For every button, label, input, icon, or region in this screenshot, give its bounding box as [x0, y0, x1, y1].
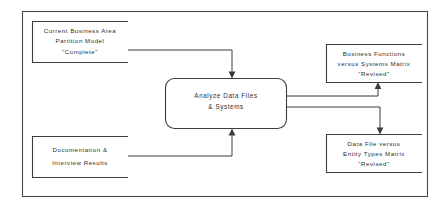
flow-line: [287, 107, 380, 129]
store-label-line-2: Interview Results: [52, 159, 108, 166]
flow-process-to-data-file-matrix: [287, 107, 383, 135]
process-label-line-2: & Systems: [208, 103, 244, 111]
flow-line: [128, 134, 232, 156]
flow-line: [128, 50, 232, 73]
data-store-business-functions-versus-systems-matrix[interactable]: Business Functions versus Systems Matrix…: [327, 45, 423, 83]
data-flow-diagram: Current Business Area Partition Model "C…: [0, 0, 446, 207]
diagram-canvas: Current Business Area Partition Model "C…: [0, 0, 446, 207]
flow-process-to-business-functions-matrix: [287, 82, 381, 96]
store-label-line-2: Partition Model: [56, 37, 105, 44]
data-store-data-file-versus-entity-types-matrix[interactable]: Data File versus Entity Types Matrix "Re…: [327, 135, 423, 173]
store-label-line-1: Business Functions: [343, 50, 406, 57]
data-store-documentation-interview-results[interactable]: Documentation & Interview Results: [33, 137, 129, 178]
flow-line: [287, 87, 378, 96]
store-label-line-1: Documentation &: [53, 146, 108, 153]
store-outline: [33, 137, 129, 178]
store-label-line-3: "Revised": [358, 160, 389, 167]
store-label-line-3: "Complete": [62, 48, 98, 55]
store-label-line-2: versus Systems Matrix: [338, 60, 411, 67]
store-label-line-1: Data File versus: [348, 140, 401, 147]
arrow-head-icon: [377, 128, 384, 135]
arrow-head-icon: [229, 72, 236, 79]
flow-documentation-to-process: [128, 129, 235, 157]
store-label-line-1: Current Business Area: [44, 27, 117, 34]
data-store-current-business-area-partition-model[interactable]: Current Business Area Partition Model "C…: [33, 22, 129, 63]
process-label-line-1: Analyze Data Files: [194, 92, 257, 100]
store-label-line-2: Entity Types Matrix: [343, 150, 405, 157]
arrow-head-icon: [229, 129, 236, 136]
process-analyze-data-files-systems[interactable]: Analyze Data Files & Systems: [166, 79, 287, 129]
store-label-line-3: "Revised": [358, 70, 389, 77]
flow-partition-model-to-process: [128, 50, 235, 79]
